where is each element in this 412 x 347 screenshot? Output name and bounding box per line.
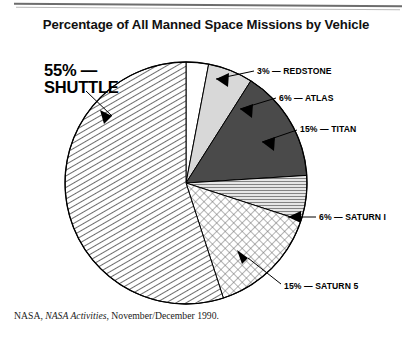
top-rule-thin xyxy=(16,7,400,10)
page-title: Percentage of All Manned Space Missions … xyxy=(0,17,412,32)
slice-label-saturn-5: 15% — SATURN 5 xyxy=(284,281,358,291)
slice-label-titan: 15% — TITAN xyxy=(300,124,356,134)
source-prefix: NASA, xyxy=(14,310,45,321)
source-suffix: , November/December 1990. xyxy=(107,310,219,321)
chart-page: Percentage of All Manned Space Missions … xyxy=(0,0,412,347)
pie-chart-svg xyxy=(64,61,309,306)
slice-label-saturn-i: 6% — SATURN I xyxy=(319,212,386,222)
slice-label-redstone: 3% — REDSTONE xyxy=(257,66,332,76)
slice-label-atlas: 6% — ATLAS xyxy=(279,93,333,103)
pie-slice-group xyxy=(65,62,307,304)
pie-chart xyxy=(64,61,309,306)
source-note: NASA, NASA Activities, November/December… xyxy=(14,310,219,321)
slice-label-shuttle: 55% — SHUTTLE xyxy=(44,62,119,97)
source-italic: NASA Activities xyxy=(45,310,106,321)
